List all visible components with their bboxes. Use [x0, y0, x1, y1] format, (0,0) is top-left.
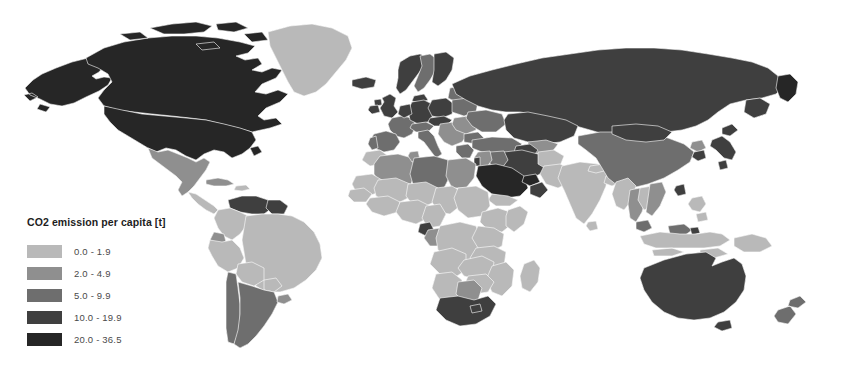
legend-label-3: 10.0 - 19.9	[74, 312, 122, 323]
legend-row: 20.0 - 36.5	[27, 328, 217, 350]
legend-swatch-3	[27, 311, 62, 324]
legend-swatch-0	[27, 245, 62, 258]
legend-label-1: 2.0 - 4.9	[74, 268, 111, 279]
legend-swatch-2	[27, 289, 62, 302]
legend-label-4: 20.0 - 36.5	[74, 334, 122, 345]
legend-row: 5.0 - 9.9	[27, 284, 217, 306]
legend-title: CO2 emission per capita [t]	[27, 216, 217, 228]
map-legend: CO2 emission per capita [t] 0.0 - 1.9 2.…	[27, 216, 217, 350]
legend-row: 10.0 - 19.9	[27, 306, 217, 328]
legend-swatch-1	[27, 267, 62, 280]
co2-per-capita-world-map: CO2 emission per capita [t] 0.0 - 1.9 2.…	[0, 0, 841, 375]
legend-label-0: 0.0 - 1.9	[74, 246, 111, 257]
legend-swatch-4	[27, 333, 62, 346]
legend-label-2: 5.0 - 9.9	[74, 290, 111, 301]
legend-row: 2.0 - 4.9	[27, 262, 217, 284]
country-poland	[428, 98, 454, 118]
legend-row: 0.0 - 1.9	[27, 240, 217, 262]
